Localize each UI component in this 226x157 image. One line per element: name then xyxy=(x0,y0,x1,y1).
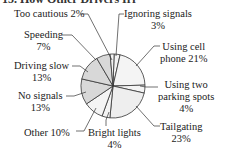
label-too-cautious: Too cautious 2% xyxy=(14,8,84,20)
label-ignoring-signals: Ignoring signals 3% xyxy=(124,8,192,32)
leader-line xyxy=(116,14,124,56)
label-line: 13% xyxy=(18,102,63,114)
leader-line xyxy=(80,14,112,60)
label-line: Driving slow xyxy=(14,60,69,72)
label-line: 4% xyxy=(158,103,214,115)
label-line: parking spots xyxy=(158,91,214,103)
label-line: Bright lights xyxy=(88,127,141,139)
leader-line xyxy=(136,46,160,66)
label-speeding: Speeding 7% xyxy=(24,29,63,53)
label-line: 13% xyxy=(14,72,69,84)
leader-line xyxy=(62,35,96,60)
label-using-two-parking-spots: Using two parking spots 4% xyxy=(158,79,214,115)
label-line: Tailgating xyxy=(160,121,202,133)
label-no-signals: No signals 13% xyxy=(18,90,63,114)
label-line: 7% xyxy=(24,41,63,53)
label-line: Speeding xyxy=(24,29,63,41)
label-tailgating: Tailgating 23% xyxy=(160,121,202,145)
label-line: 23% xyxy=(160,133,202,145)
label-line: Ignoring signals xyxy=(124,8,192,20)
label-bright-lights: Bright lights 4% xyxy=(88,127,141,151)
leader-line xyxy=(136,106,160,126)
label-line: Using two xyxy=(158,79,214,91)
label-driving-slow: Driving slow 13% xyxy=(14,60,69,84)
label-line: Using cell xyxy=(160,41,208,53)
label-line: phone 21% xyxy=(160,53,208,65)
label-line: 4% xyxy=(88,139,141,151)
label-using-cell-phone: Using cell phone 21% xyxy=(160,41,208,65)
label-line: No signals xyxy=(18,90,63,102)
label-other: Other 10% xyxy=(24,127,70,139)
label-line: 3% xyxy=(124,20,192,32)
